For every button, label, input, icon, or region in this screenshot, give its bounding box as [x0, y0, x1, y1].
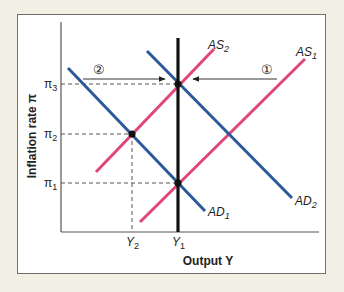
as-ad-diagram: ② ① AS2 AS1 AD1 AD2 π3 π2 π1 Y2 Y1 Outpu… [0, 0, 344, 292]
x-tick-y2: Y2 [126, 235, 139, 251]
as1-curve [140, 59, 305, 222]
y-tick-pi1: π1 [44, 176, 57, 192]
x-axis-title: Output Y [183, 254, 233, 268]
as2-label: AS2 [207, 38, 229, 54]
as1-label: AS1 [295, 45, 317, 61]
marker-1: ① [261, 62, 273, 77]
x-tick-y1: Y1 [172, 235, 185, 251]
as2-curve [96, 49, 214, 172]
ad1-label: AD1 [207, 205, 230, 221]
equilibrium-point-pi1 [174, 179, 181, 186]
y-tick-pi2: π2 [44, 127, 57, 143]
y-axis-title: Inflation rate π [25, 94, 39, 179]
marker-2: ② [93, 62, 105, 77]
equilibrium-point-pi3 [174, 80, 181, 87]
equilibrium-point-pi2 [128, 130, 135, 137]
y-tick-pi3: π3 [44, 77, 57, 93]
ad2-label: AD2 [294, 194, 317, 210]
